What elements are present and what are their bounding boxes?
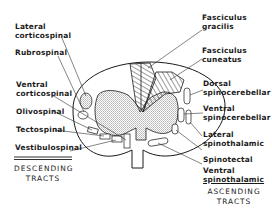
label-line: spinothalamic [203,139,264,148]
label-line: cuneatus [202,55,247,64]
label-olivospinal: Olivospinal [16,107,64,116]
label-line: corticospinal [15,31,71,40]
ascending-tracts-heading: ASCENDING TRACTS [204,187,264,207]
label-dorsal-spinocerebellar: Dorsal spinocerebellar [203,79,271,97]
heading-line: DESCENDING [14,164,72,174]
olivospinal-region [87,127,98,134]
heading-line: TRACTS [14,174,72,184]
label-spinotectal: Spinotectal [203,155,253,164]
label-ventral-spinothalamic: Ventral spinothalamic [203,166,264,184]
label-line: gracilis [202,22,247,31]
label-rubrospinal: Rubrospinal [15,48,67,57]
label-line: spinocerebellar [203,88,271,97]
label-line: Vestibulospinal [15,143,82,152]
label-ventral-spinocerebellar: Ventral spinocerebellar [203,104,271,122]
label-line: corticospinal [16,89,72,98]
spinotectal-region [172,124,178,134]
descending-divider [14,157,72,160]
rubrospinal-region [78,111,88,119]
label-line: Lateral [15,22,71,31]
label-line: Fasciculus [202,13,247,22]
label-ventral-corticospinal: Ventral corticospinal [16,80,72,98]
label-line: Lateral [203,130,264,139]
heading-line: TRACTS [204,197,264,207]
label-line: Fasciculus [202,46,247,55]
label-line: Dorsal [203,79,271,88]
ventral-spinothalamic-region [148,137,169,146]
descending-tracts-heading: DESCENDING TRACTS [14,164,72,184]
label-lateral-spinothalamic: Lateral spinothalamic [203,130,264,148]
label-vestibulospinal: Vestibulospinal [15,143,82,152]
label-line: Rubrospinal [15,48,67,57]
label-line: Ventral [203,104,271,113]
label-line: spinothalamic [203,175,264,184]
ventral-corticospinal-region [124,134,130,148]
label-fasciculus-gracilis: Fasciculus gracilis [202,13,247,31]
label-line: Ventral [203,166,264,175]
label-line: Spinotectal [203,155,253,164]
label-line: Ventral [16,80,72,89]
label-fasciculus-cuneatus: Fasciculus cuneatus [202,46,247,64]
label-lateral-corticospinal: Lateral corticospinal [15,22,71,40]
label-line: spinocerebellar [203,113,271,122]
label-line: Olivospinal [16,107,64,116]
label-line: Tectospinal [16,125,65,134]
label-tectospinal: Tectospinal [16,125,65,134]
tectospinal-region [100,134,110,139]
heading-line: ASCENDING [204,187,264,197]
dorsal-spinocerebellar-region [184,88,190,104]
ventral-spinocerebellar-region [178,108,184,122]
